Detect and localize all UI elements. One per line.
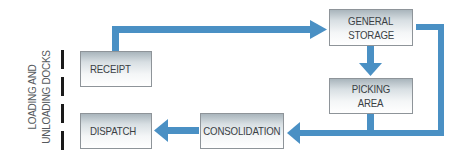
dock-label-line1: LOADING AND — [26, 42, 40, 152]
node-picking-area-line1: PICKING — [352, 82, 391, 96]
node-consolidation: CONSOLIDATION — [200, 113, 284, 149]
node-general-storage: GENERAL STORAGE — [329, 9, 413, 46]
loading-docks-label: LOADING AND UNLOADING DOCKS — [24, 42, 56, 152]
dock-label-line2: UNLOADING DOCKS — [40, 42, 54, 152]
node-picking-area: PICKING AREA — [329, 78, 413, 114]
arrow-storage-to-picking — [359, 46, 382, 76]
arrow-consolidation-to-dispatch — [154, 119, 199, 142]
node-receipt: RECEIPT — [80, 51, 152, 87]
node-dispatch: DISPATCH — [80, 113, 152, 149]
node-general-storage-line1: GENERAL — [348, 14, 393, 28]
dock-marker-2 — [61, 77, 64, 96]
node-picking-area-line2: AREA — [358, 96, 384, 110]
warehouse-flow-diagram: LOADING AND UNLOADING DOCKS RECEIPT GENE… — [0, 0, 464, 156]
node-consolidation-label: CONSOLIDATION — [203, 124, 280, 138]
node-dispatch-label: DISPATCH — [90, 124, 136, 138]
arrow-receipt-to-storage — [112, 20, 327, 51]
node-receipt-label: RECEIPT — [90, 62, 131, 76]
dock-marker-4 — [61, 131, 64, 150]
node-general-storage-line2: STORAGE — [348, 28, 394, 42]
dock-marker-1 — [61, 50, 64, 69]
dock-marker-3 — [61, 104, 64, 123]
arrow-picking-to-consolidation — [367, 114, 374, 134]
